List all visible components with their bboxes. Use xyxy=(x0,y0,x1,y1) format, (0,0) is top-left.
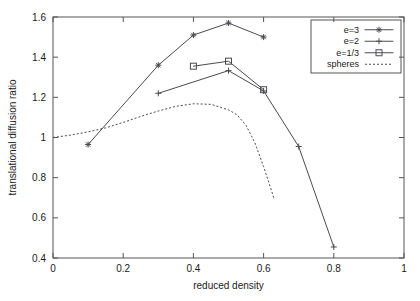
series-e-2 xyxy=(155,68,336,250)
x-axis-title: reduced density xyxy=(193,280,264,291)
series-line xyxy=(158,71,333,247)
x-tick-label: 0.8 xyxy=(327,263,341,274)
series-e-3 xyxy=(85,20,267,148)
data-point-plus-marker xyxy=(155,90,161,96)
legend-label-e-1-3: e=1/3 xyxy=(336,48,359,58)
x-tick-label: 0.2 xyxy=(116,263,130,274)
chart-figure: e=3e=2e=1/3spheres 00.20.40.60.810.40.60… xyxy=(0,0,420,301)
series-e-1-3 xyxy=(190,58,266,93)
data-point-star-marker xyxy=(85,142,91,148)
x-tick-label: 0.4 xyxy=(186,263,200,274)
y-tick-label: 1 xyxy=(40,132,46,143)
x-tick-label: 0.6 xyxy=(257,263,271,274)
y-axis-title: translational diffusion ratio xyxy=(7,79,18,195)
series-line xyxy=(53,104,274,199)
legend-plus-marker xyxy=(376,38,382,44)
y-tick-label: 0.4 xyxy=(32,253,46,264)
data-point-star-marker xyxy=(155,62,161,68)
y-tick-label: 1.6 xyxy=(32,12,46,23)
legend-star-marker xyxy=(376,27,382,33)
legend-group: e=3e=2e=1/3spheres xyxy=(311,20,401,73)
data-point-star-marker xyxy=(261,34,267,40)
legend-label-e-2: e=2 xyxy=(344,36,359,46)
y-tick-label: 1.4 xyxy=(32,52,46,63)
series-spheres xyxy=(53,104,274,199)
data-point-plus-marker xyxy=(331,244,337,250)
data-point-plus-marker xyxy=(296,144,302,150)
plot-canvas: e=3e=2e=1/3spheres 00.20.40.60.810.40.60… xyxy=(0,0,420,301)
x-tick-label: 1 xyxy=(401,263,407,274)
series-line xyxy=(88,23,264,145)
legend-label-e-3: e=3 xyxy=(344,25,359,35)
y-tick-label: 0.8 xyxy=(32,172,46,183)
data-point-star-marker xyxy=(190,32,196,38)
x-tick-label: 0 xyxy=(50,263,56,274)
series-group xyxy=(53,20,337,250)
legend-label-spheres: spheres xyxy=(327,59,360,69)
series-line xyxy=(193,61,263,90)
data-point-star-marker xyxy=(226,20,232,26)
y-tick-label: 0.6 xyxy=(32,212,46,223)
data-point-plus-marker xyxy=(226,68,232,74)
y-tick-label: 1.2 xyxy=(32,92,46,103)
